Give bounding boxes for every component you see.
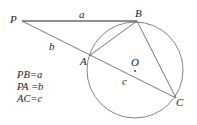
segment-label-b: b [49, 40, 55, 52]
segment-label-a: a [79, 8, 85, 20]
equation-pa: PA =b [16, 81, 43, 92]
label-c-point: C [176, 96, 184, 108]
circle-o [87, 22, 183, 118]
segment-label-c: c [122, 75, 127, 87]
center-dot [134, 70, 136, 72]
geometry-diagram: P B A C O a b c PB=a PA =b AC=c [0, 0, 197, 125]
label-b: B [135, 7, 142, 19]
chord-bc [137, 21, 176, 98]
label-o: O [131, 56, 139, 68]
label-a-point: A [79, 55, 87, 67]
secant-pc [22, 21, 176, 98]
equation-pb: PB=a [16, 69, 42, 80]
equation-ac: AC=c [16, 93, 43, 104]
label-p: P [9, 13, 17, 25]
chord-ab [89, 21, 137, 56]
